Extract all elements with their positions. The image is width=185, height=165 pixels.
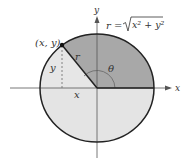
formula-radicand: x² + y² bbox=[132, 19, 165, 30]
y-leg-label: y bbox=[49, 62, 56, 73]
point-label: (x, y) bbox=[35, 37, 61, 48]
diagram-canvas: (x, y) r θ y x x y r = x² + y² bbox=[0, 0, 185, 165]
point-marker bbox=[60, 43, 64, 47]
x-axis-arrow-icon bbox=[165, 86, 172, 91]
formula-lhs: r = bbox=[106, 20, 122, 31]
radius-formula: r = x² + y² bbox=[106, 17, 165, 31]
theta-label: θ bbox=[108, 63, 114, 74]
x-axis-label: x bbox=[175, 83, 180, 93]
polar-coordinates-figure: (x, y) r θ y x x y r = x² + y² bbox=[0, 0, 185, 165]
y-axis-arrow-icon bbox=[95, 16, 100, 23]
x-leg-label: x bbox=[74, 89, 80, 100]
y-axis-label: y bbox=[93, 5, 100, 15]
